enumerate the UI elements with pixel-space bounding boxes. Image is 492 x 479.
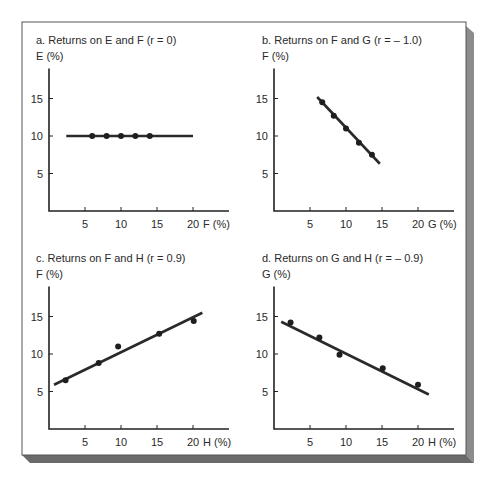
- data-point: [147, 133, 153, 139]
- figure-frame: [22, 22, 466, 455]
- y-tick-label: 10: [256, 348, 268, 360]
- panel-title: d. Returns on G and H (r = – 0.9): [262, 252, 423, 264]
- x-axis-label: F (%): [203, 218, 230, 230]
- data-point: [115, 344, 121, 350]
- x-tick-label: 15: [151, 218, 163, 230]
- data-point: [96, 360, 102, 366]
- y-tick-label: 5: [37, 168, 43, 180]
- data-point: [343, 126, 349, 132]
- x-axis-label: G (%): [428, 218, 457, 230]
- x-axis-label: H (%): [203, 436, 231, 448]
- data-point: [380, 365, 386, 371]
- y-axis-label: E (%): [36, 50, 64, 62]
- data-point: [288, 320, 294, 326]
- x-tick-label: 5: [307, 218, 313, 230]
- x-tick-label: 20: [412, 218, 424, 230]
- data-point: [63, 377, 69, 383]
- data-point: [415, 382, 421, 388]
- x-tick-label: 20: [187, 218, 199, 230]
- data-point: [191, 318, 197, 324]
- y-tick-label: 10: [256, 130, 268, 142]
- frame-shadow-right: [466, 26, 474, 463]
- data-point: [118, 133, 124, 139]
- x-tick-label: 15: [376, 436, 388, 448]
- figure: a. Returns on E and F (r = 0)E (%)510155…: [0, 0, 492, 479]
- x-tick-label: 15: [376, 218, 388, 230]
- x-tick-label: 20: [187, 436, 199, 448]
- y-tick-label: 5: [37, 386, 43, 398]
- x-tick-label: 15: [151, 436, 163, 448]
- y-axis-label: F (%): [36, 268, 63, 280]
- y-tick-label: 15: [256, 311, 268, 323]
- data-point: [316, 335, 322, 341]
- y-tick-label: 15: [256, 93, 268, 105]
- y-tick-label: 5: [262, 168, 268, 180]
- data-point: [156, 331, 162, 337]
- y-tick-label: 5: [262, 386, 268, 398]
- y-tick-label: 15: [31, 93, 43, 105]
- frame-shadow-bottom: [22, 455, 474, 463]
- y-tick-label: 15: [31, 311, 43, 323]
- y-axis-label: G (%): [262, 268, 291, 280]
- data-point: [132, 133, 138, 139]
- data-point: [356, 140, 362, 146]
- x-tick-label: 20: [412, 436, 424, 448]
- data-point: [369, 152, 375, 158]
- data-point: [104, 133, 110, 139]
- panel-title: c. Returns on F and H (r = 0.9): [36, 252, 185, 264]
- y-tick-label: 10: [31, 130, 43, 142]
- data-point: [337, 352, 343, 358]
- data-point: [319, 99, 325, 105]
- x-tick-label: 5: [82, 218, 88, 230]
- x-tick-label: 10: [115, 218, 127, 230]
- x-axis-label: H (%): [428, 436, 456, 448]
- x-tick-label: 10: [340, 218, 352, 230]
- x-tick-label: 10: [115, 436, 127, 448]
- x-tick-label: 5: [82, 436, 88, 448]
- panel-title: b. Returns on F and G (r = – 1.0): [262, 34, 422, 46]
- x-tick-label: 5: [307, 436, 313, 448]
- data-point: [331, 113, 337, 119]
- y-tick-label: 10: [31, 348, 43, 360]
- x-tick-label: 10: [340, 436, 352, 448]
- panel-title: a. Returns on E and F (r = 0): [36, 34, 176, 46]
- data-point: [89, 133, 95, 139]
- y-axis-label: F (%): [262, 50, 289, 62]
